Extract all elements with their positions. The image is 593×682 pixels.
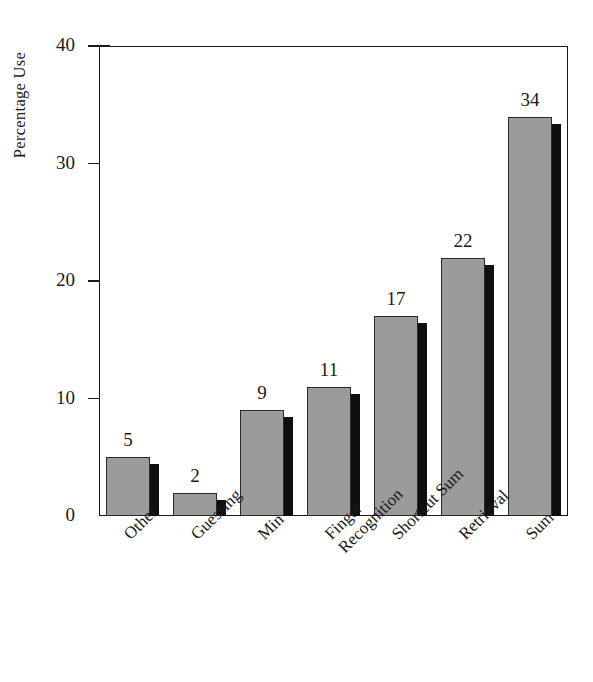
x-axis-label-line1: Retrieval xyxy=(455,486,512,543)
bar-chart-figure: Percentage Use 403020100 52911172234 Oth… xyxy=(0,0,593,682)
x-axis-labels: OtherGuessingMinFingerRecognitionShortcu… xyxy=(0,0,593,682)
x-axis-label-line1: Sum xyxy=(522,508,557,543)
x-axis-label-line1: Min xyxy=(254,510,287,543)
x-axis-label-finger-recognition: FingerRecognition xyxy=(321,471,407,557)
x-axis-label-other: Other xyxy=(120,503,161,544)
x-axis-label-min: Min xyxy=(254,510,287,543)
x-axis-label-line1: Guessing xyxy=(187,485,245,543)
x-axis-label-guessing: Guessing xyxy=(187,485,245,543)
x-axis-label-sum: Sum xyxy=(522,508,558,544)
x-axis-label-retrieval: Retrieval xyxy=(455,486,513,544)
x-axis-label-line1: Other xyxy=(120,503,161,544)
